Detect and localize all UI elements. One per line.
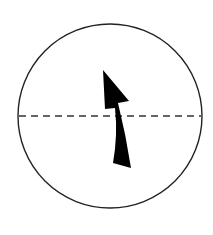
circle-arrow-diagram bbox=[0, 0, 213, 235]
curved-up-arrow-icon bbox=[103, 70, 131, 168]
